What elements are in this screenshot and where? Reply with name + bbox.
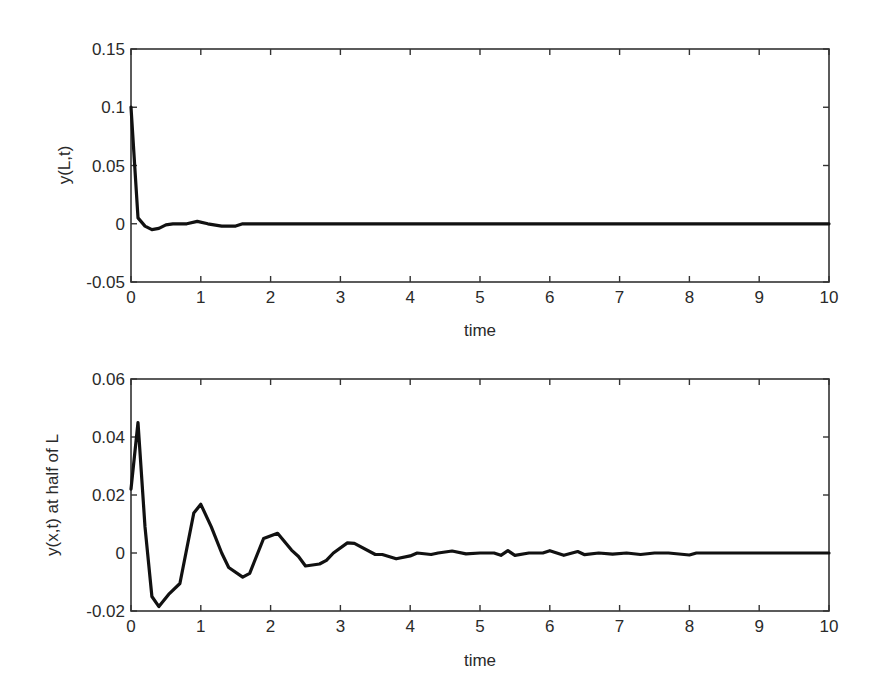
bottom-plot-ticks	[131, 379, 829, 611]
x-tick-label: 2	[266, 288, 275, 307]
y-tick-label: -0.05	[86, 273, 125, 292]
bottom-plot-x-tick-labels: 012345678910	[126, 617, 838, 636]
x-tick-label: 0	[126, 617, 135, 636]
x-tick-label: 3	[336, 617, 345, 636]
x-tick-label: 4	[405, 288, 414, 307]
bottom-plot-y-tick-labels: -0.0200.020.040.06	[86, 370, 125, 621]
x-tick-label: 7	[615, 617, 624, 636]
y-tick-label: 0.15	[92, 40, 125, 59]
y-tick-label: 0.04	[92, 428, 125, 447]
y-tick-label: 0.02	[92, 486, 125, 505]
y-tick-label: -0.02	[86, 602, 125, 621]
y-tick-label: 0	[116, 215, 125, 234]
x-tick-label: 1	[196, 288, 205, 307]
x-tick-label: 5	[475, 617, 484, 636]
x-tick-label: 0	[126, 288, 135, 307]
bottom-plot-frame	[131, 379, 829, 611]
top-plot-y-tick-labels: -0.0500.050.10.15	[86, 40, 125, 292]
figure: 012345678910 -0.0500.050.10.15 time y(L,…	[0, 0, 874, 697]
x-tick-label: 5	[475, 288, 484, 307]
y-tick-label: 0.05	[92, 157, 125, 176]
x-tick-label: 10	[820, 288, 839, 307]
x-tick-label: 3	[336, 288, 345, 307]
y-tick-label: 0.06	[92, 370, 125, 389]
top-plot: 012345678910 -0.0500.050.10.15 time y(L,…	[55, 40, 838, 340]
x-tick-label: 9	[754, 617, 763, 636]
top-plot-y-label: y(L,t)	[55, 146, 74, 185]
x-tick-label: 9	[754, 288, 763, 307]
x-tick-label: 2	[266, 617, 275, 636]
bottom-plot-x-label: time	[464, 651, 496, 670]
x-tick-label: 6	[545, 617, 554, 636]
x-tick-label: 8	[685, 617, 694, 636]
y-tick-label: 0	[116, 544, 125, 563]
bottom-plot-line	[131, 423, 829, 607]
bottom-plot: 012345678910 -0.0200.020.040.06 time y(x…	[43, 370, 838, 670]
x-tick-label: 4	[405, 617, 414, 636]
bottom-plot-y-label: y(x,t) at half of L	[43, 434, 62, 556]
x-tick-label: 10	[820, 617, 839, 636]
x-tick-label: 6	[545, 288, 554, 307]
y-tick-label: 0.1	[101, 98, 125, 117]
top-plot-frame	[131, 49, 829, 282]
x-tick-label: 8	[685, 288, 694, 307]
x-tick-label: 7	[615, 288, 624, 307]
x-tick-label: 1	[196, 617, 205, 636]
top-plot-x-tick-labels: 012345678910	[126, 288, 838, 307]
top-plot-x-label: time	[464, 321, 496, 340]
top-plot-line	[131, 107, 829, 229]
top-plot-ticks	[131, 49, 829, 282]
